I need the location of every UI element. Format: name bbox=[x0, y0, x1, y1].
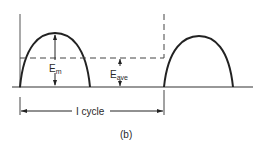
half-wave-rectified-diagram: Em Eave I cycle (b) bbox=[0, 0, 265, 147]
average-value-arrow bbox=[118, 59, 122, 86]
average-value-label: Eave bbox=[110, 69, 128, 81]
half-wave-pulse-2 bbox=[164, 36, 233, 87]
peak-amplitude-arrow bbox=[53, 34, 57, 86]
peak-amplitude-label: Em bbox=[49, 63, 62, 75]
cycle-label: I cycle bbox=[76, 106, 105, 117]
figure-caption: (b) bbox=[120, 129, 132, 140]
